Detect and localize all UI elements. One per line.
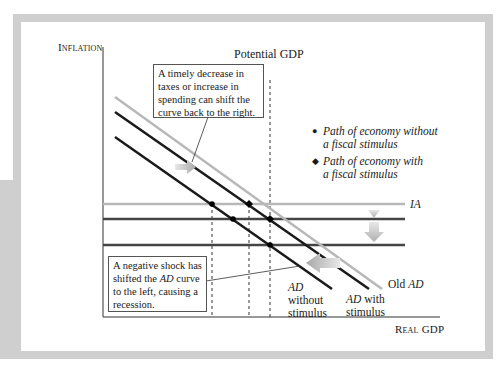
- callout-bottom-line-3: to the left, causing a: [113, 285, 202, 298]
- x-axis-label: Real GDP: [395, 323, 444, 335]
- ad-without-label-line3: stimulus: [288, 307, 327, 320]
- callout-bottom-line-2-post: curve: [174, 273, 200, 284]
- ia-down-arrow-large-icon: [364, 222, 384, 242]
- callout-bottom-leader: [206, 266, 300, 281]
- point-without-1: [209, 201, 215, 207]
- diamond-icon: ◆: [312, 155, 319, 168]
- callout-bottom-line-4: recession.: [113, 298, 202, 311]
- callout-top-line-4: curve back to the right.: [158, 106, 259, 119]
- old-ad-label-name: AD: [408, 278, 423, 290]
- legend-item-with: ◆ Path of economy with a fiscal stimulus: [312, 155, 423, 181]
- legend-without-line-2: a fiscal stimulus: [312, 138, 438, 151]
- callout-top-line-1: A timely decrease in: [158, 67, 259, 80]
- legend-with-line-1: Path of economy with: [312, 155, 423, 168]
- callout-top-line-2: taxes or increase in: [158, 80, 259, 93]
- callout-bottom-line-1: A negative shock has: [113, 259, 202, 272]
- callout-negative-shock: A negative shock has shifted the AD curv…: [108, 256, 207, 312]
- legend-item-without: ● Path of economy without a fiscal stimu…: [312, 125, 438, 151]
- callout-bottom-line-2-it: AD: [160, 273, 174, 284]
- callout-bottom-line-2-pre: shifted the: [113, 273, 160, 284]
- old-ad-label: Old AD: [388, 278, 423, 290]
- ad-without-label-name: AD: [288, 281, 327, 294]
- ad-with-stimulus-label: AD with stimulus: [346, 293, 385, 319]
- ia-label: IA: [410, 198, 421, 210]
- ad-with-label-name: AD: [346, 293, 361, 305]
- potential-gdp-label: Potential GDP: [234, 47, 304, 62]
- ad-with-label-line2: stimulus: [346, 306, 385, 319]
- legend-with-line-2: a fiscal stimulus: [312, 168, 423, 181]
- old-ad-label-prefix: Old: [388, 278, 408, 290]
- point-without-2: [230, 216, 236, 222]
- callout-top-leader: [192, 117, 208, 162]
- ia-down-arrow-small-icon: [368, 210, 380, 218]
- callout-top-line-3: spending can shift the: [158, 93, 259, 106]
- ad-with-label-suffix: with: [361, 293, 384, 305]
- circle-icon: ●: [312, 125, 317, 138]
- callout-fiscal-stimulus: A timely decrease in taxes or increase i…: [153, 64, 264, 118]
- point-without-3: [267, 242, 273, 248]
- ad-without-label-line2: without: [288, 294, 327, 307]
- legend-without-line-1: Path of economy without: [312, 125, 438, 138]
- y-axis-label: Inflation: [58, 41, 103, 53]
- ad-without-stimulus-label: AD without stimulus: [288, 281, 327, 320]
